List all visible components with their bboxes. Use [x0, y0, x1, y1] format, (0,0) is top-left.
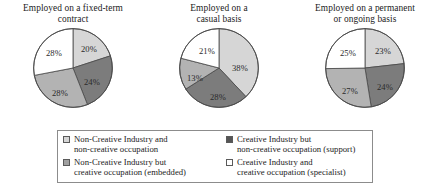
- pie-chart-casual: Employed on a casual basis 38% 28% 13% 2…: [146, 0, 292, 128]
- slice-label: 23%: [375, 46, 391, 56]
- pie-area: 38% 28% 13% 21%: [178, 27, 260, 109]
- legend-swatch-icon: [226, 159, 233, 166]
- chart-title-line-1: Employed on a: [149, 3, 289, 14]
- slice-label: 13%: [187, 73, 203, 83]
- legend-item-non-creative-industry-non-creative-occupation[interactable]: Non-Creative Industry and non-creative o…: [63, 134, 226, 157]
- slice-label: 28%: [210, 92, 226, 102]
- pie-chart-figure: Employed on a fixed-term contract 20% 24…: [0, 0, 440, 190]
- legend-label-line-2: non-creative occupation: [74, 144, 168, 154]
- legend-swatch-icon: [226, 136, 233, 143]
- legend-item-creative-industry-non-creative-occupation[interactable]: Creative Industry but non-creative occup…: [226, 134, 379, 157]
- slice-label: 21%: [199, 46, 215, 56]
- legend-grid: Non-Creative Industry and non-creative o…: [58, 131, 372, 182]
- legend-label-line-2: creative occupation (embedded): [74, 167, 186, 177]
- legend-swatch-icon: [63, 159, 70, 166]
- legend-item-label: Non-Creative Industry but creative occup…: [74, 157, 186, 178]
- slice-label: 25%: [340, 48, 356, 58]
- legend-item-label: Creative Industry but non-creative occup…: [237, 134, 355, 155]
- legend-item-creative-industry-creative-occupation[interactable]: Creative Industry and creative occupatio…: [226, 157, 379, 180]
- legend-item-label: Non-Creative Industry and non-creative o…: [74, 134, 168, 155]
- pie-area: 23% 24% 27% 25%: [324, 27, 406, 109]
- chart-title-line-2: contract: [3, 14, 143, 25]
- slice-label: 28%: [52, 88, 68, 98]
- pie-area: 20% 24% 28% 28%: [32, 27, 114, 109]
- chart-title: Employed on a casual basis: [149, 3, 289, 25]
- slice-label: 24%: [84, 77, 100, 87]
- legend-label-line-1: Non-Creative Industry but: [74, 157, 186, 167]
- legend-item-non-creative-industry-creative-occupation[interactable]: Non-Creative Industry but creative occup…: [63, 157, 226, 180]
- slice-label: 24%: [377, 82, 393, 92]
- legend-label-line-2: non-creative occupation (support): [237, 144, 355, 154]
- pie-svg: [324, 27, 406, 109]
- legend-label-line-2: creative occupation (specialist): [237, 167, 346, 177]
- legend-swatch-icon: [63, 136, 70, 143]
- chart-title-line-1: Employed on a permanent: [295, 3, 435, 14]
- charts-row: Employed on a fixed-term contract 20% 24…: [0, 0, 440, 128]
- legend-item-label: Creative Industry and creative occupatio…: [237, 157, 346, 178]
- chart-title: Employed on a permanent or ongoing basis: [295, 3, 435, 25]
- legend-label-line-1: Creative Industry and: [237, 157, 346, 167]
- slice-label: 38%: [232, 63, 248, 73]
- chart-title-line-1: Employed on a fixed-term: [3, 3, 143, 14]
- chart-title-line-2: or ongoing basis: [295, 14, 435, 25]
- legend-label-line-1: Non-Creative Industry and: [74, 134, 168, 144]
- pie-svg: [32, 27, 114, 109]
- chart-title-line-2: casual basis: [149, 14, 289, 25]
- pie-chart-permanent: Employed on a permanent or ongoing basis…: [292, 0, 438, 128]
- pie-chart-fixed-term: Employed on a fixed-term contract 20% 24…: [0, 0, 146, 128]
- chart-title: Employed on a fixed-term contract: [3, 3, 143, 25]
- slice-label: 27%: [342, 86, 358, 96]
- slice-label: 20%: [81, 44, 97, 54]
- legend: Non-Creative Industry and non-creative o…: [57, 130, 373, 183]
- slice-label: 28%: [46, 48, 62, 58]
- legend-label-line-1: Creative Industry but: [237, 134, 355, 144]
